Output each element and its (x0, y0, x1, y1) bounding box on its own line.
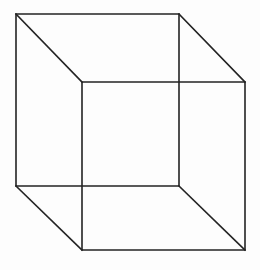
cube-connector-bottom-left (16, 186, 82, 250)
cube-connector-top-left (16, 14, 82, 82)
figure-canvas (0, 0, 260, 270)
necker-cube-drawing (0, 0, 260, 270)
cube-connector-top-right (179, 14, 245, 82)
cube-connector-bottom-right (179, 186, 245, 250)
cube-front-face (82, 82, 245, 250)
